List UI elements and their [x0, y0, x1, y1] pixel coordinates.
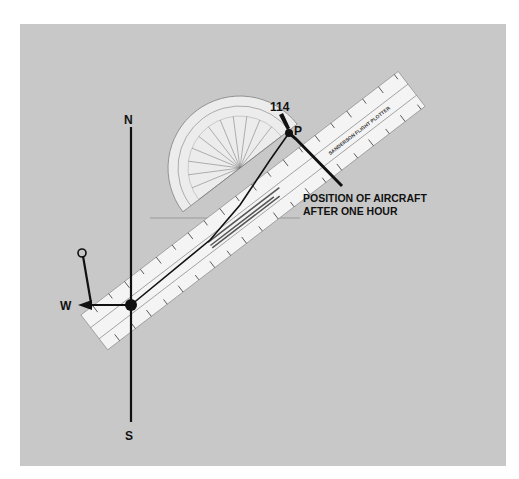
origin-marker-icon	[78, 249, 86, 257]
flight-plotter-diagram: SANDERSON FLIGHT PLOTTER	[0, 0, 519, 479]
origin-dot	[125, 299, 137, 311]
heading-label: 114	[270, 100, 290, 114]
origin-pointer	[83, 256, 91, 303]
south-label: S	[125, 429, 133, 443]
position-label: P	[294, 124, 302, 138]
annotation-line-1: POSITION OF AIRCRAFT	[303, 192, 427, 204]
annotation-line-2: AFTER ONE HOUR	[303, 205, 398, 217]
west-label: W	[60, 299, 72, 313]
north-label: N	[124, 113, 133, 127]
